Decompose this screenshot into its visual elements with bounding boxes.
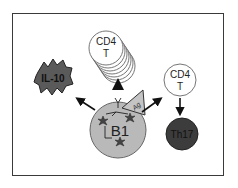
diagram-canvas: CD4 T IL-10 CD4 T Th17 B1 Ag bbox=[0, 0, 238, 188]
cd4-t-label-line2: T bbox=[177, 81, 183, 92]
cd4-t-label-line1: CD4 bbox=[170, 69, 190, 80]
il10-label: IL-10 bbox=[41, 73, 65, 84]
th17-label: Th17 bbox=[171, 129, 194, 140]
proliferating-t-label-line1: CD4 bbox=[96, 36, 116, 47]
arrow-to-il10 bbox=[78, 99, 95, 110]
th17-cell: Th17 bbox=[166, 118, 198, 150]
il10-cytokine: IL-10 bbox=[34, 59, 73, 95]
proliferating-t-label-line2: T bbox=[103, 48, 109, 59]
cd4-t-cell: CD4 T bbox=[164, 64, 196, 96]
b1-label: B1 bbox=[111, 122, 129, 139]
proliferating-cd4-t-stack: CD4 T bbox=[89, 31, 135, 83]
